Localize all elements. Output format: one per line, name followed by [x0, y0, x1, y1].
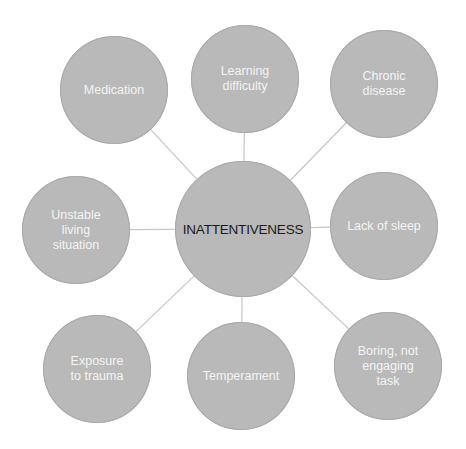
node-label: Temperament [203, 369, 279, 384]
node-label: Learning difficulty [221, 64, 270, 94]
node-label: Unstable living situation [51, 208, 100, 253]
node-label: Chronic disease [362, 69, 405, 99]
node-exposure-to-trauma[interactable]: Exposure to trauma [43, 315, 151, 423]
node-chronic-disease[interactable]: Chronic disease [330, 30, 438, 138]
node-label: Lack of sleep [347, 219, 421, 234]
node-label: Boring, not engaging task [358, 344, 418, 389]
node-label: Exposure to trauma [71, 354, 124, 384]
node-learning-difficulty[interactable]: Learning difficulty [191, 25, 299, 133]
inattentiveness-diagram: INATTENTIVENESS Medication Learning diff… [0, 0, 466, 449]
node-label: Medication [84, 83, 144, 98]
connector-exposure-to-trauma [136, 276, 194, 332]
connector-medication [151, 130, 197, 180]
center-node-label: INATTENTIVENESS [183, 222, 304, 237]
center-node-inattentiveness[interactable]: INATTENTIVENESS [175, 161, 311, 297]
node-unstable-living-situation[interactable]: Unstable living situation [22, 176, 130, 284]
connector-chronic-disease [290, 123, 346, 181]
node-medication[interactable]: Medication [60, 36, 168, 144]
connector-boring-task [292, 276, 348, 329]
node-boring-task[interactable]: Boring, not engaging task [334, 312, 442, 420]
node-lack-of-sleep[interactable]: Lack of sleep [330, 172, 438, 280]
node-temperament[interactable]: Temperament [187, 322, 295, 430]
